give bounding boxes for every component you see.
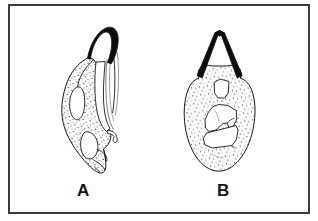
specimen-label-a: A [77, 182, 90, 199]
specimen-b-drawing [178, 31, 262, 179]
specimen-label-b: B [217, 182, 230, 199]
figure-plate: A B [0, 0, 318, 221]
specimen-a-drawing [55, 27, 125, 180]
specimen-drawings [0, 0, 318, 221]
